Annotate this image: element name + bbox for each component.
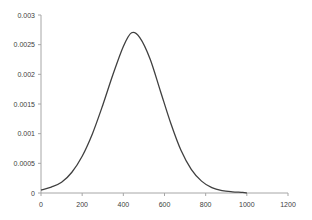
x-tick-label: 800 xyxy=(200,201,212,208)
x-tick-label: 1200 xyxy=(280,201,296,208)
y-tick-label: 0.002 xyxy=(17,71,35,78)
y-tick-label: 0.0005 xyxy=(14,160,36,167)
series-layer xyxy=(41,32,247,193)
y-tick-label: 0.0015 xyxy=(14,101,36,108)
series-line-density xyxy=(41,32,247,193)
y-axis: 00.00050.0010.00150.0020.00250.003 xyxy=(14,12,41,197)
x-tick-label: 200 xyxy=(76,201,88,208)
x-tick-label: 400 xyxy=(117,201,129,208)
x-tick-label: 600 xyxy=(159,201,171,208)
y-tick-label: 0.0025 xyxy=(14,41,36,48)
x-tick-label: 1000 xyxy=(239,201,255,208)
line-chart: 00.00050.0010.00150.0020.00250.003 02004… xyxy=(0,0,312,220)
x-tick-label: 0 xyxy=(39,201,43,208)
y-tick-label: 0 xyxy=(31,190,35,197)
y-tick-label: 0.003 xyxy=(17,12,35,19)
x-axis: 020040060080010001200 xyxy=(39,193,296,208)
y-tick-label: 0.001 xyxy=(17,130,35,137)
